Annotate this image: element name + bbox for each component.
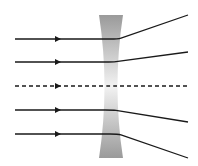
arrow-head-icon	[55, 131, 61, 137]
diverging-lens-diagram	[0, 0, 198, 166]
light-rays	[15, 15, 188, 158]
ray-4	[15, 110, 188, 122]
arrow-head-icon	[55, 36, 61, 42]
ray-2	[15, 52, 188, 62]
arrow-head-icon	[55, 83, 61, 89]
arrow-head-icon	[55, 107, 61, 113]
arrow-head-icon	[55, 59, 61, 65]
